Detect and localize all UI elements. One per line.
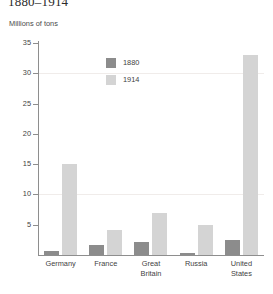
x-axis-category-labels: GermanyFranceGreatBritainRussiaUnitedSta… (38, 259, 264, 293)
category-label: GreatBritain (128, 259, 173, 278)
legend-label: 1914 (123, 75, 139, 84)
bar-series-container (38, 43, 264, 255)
bar-1880 (89, 245, 104, 255)
bar-1880 (44, 251, 59, 255)
plot-area: 3530252015105 GermanyFranceGreatBritainR… (0, 0, 273, 294)
bar-1914 (152, 213, 167, 255)
y-axis-tick-label: 20 (5, 129, 31, 138)
bar-chart: 1880–1914 Millions of tons 3530252015105… (0, 0, 273, 294)
bar-group (219, 43, 264, 255)
y-axis-tick-label: 10 (5, 189, 31, 198)
bar-1914 (107, 230, 122, 255)
bar-1914 (62, 164, 77, 255)
legend-label: 1880 (123, 58, 139, 67)
bar-1880 (180, 253, 195, 255)
y-axis-tick-label: 15 (5, 159, 31, 168)
bar-1914 (243, 55, 258, 255)
y-axis-tick-label: 35 (5, 38, 31, 47)
legend-swatch-icon (106, 58, 116, 68)
bar-group (38, 43, 83, 255)
category-label: Russia (174, 259, 219, 269)
bar-1880 (225, 240, 240, 255)
y-axis-tick-label: 30 (5, 68, 31, 77)
bar-1914 (198, 225, 213, 255)
chart-legend: 1880 1914 (106, 56, 139, 90)
y-axis-tick-label: 5 (5, 220, 31, 229)
y-axis-tick-label: 25 (5, 99, 31, 108)
legend-swatch-icon (106, 75, 116, 85)
category-label: Germany (38, 259, 83, 269)
bar-group (174, 43, 219, 255)
category-label: UnitedStates (219, 259, 264, 278)
legend-item: 1914 (106, 73, 139, 86)
bar-1880 (134, 242, 149, 255)
category-label: France (83, 259, 128, 269)
x-axis-line (38, 255, 264, 256)
legend-item: 1880 (106, 56, 139, 69)
